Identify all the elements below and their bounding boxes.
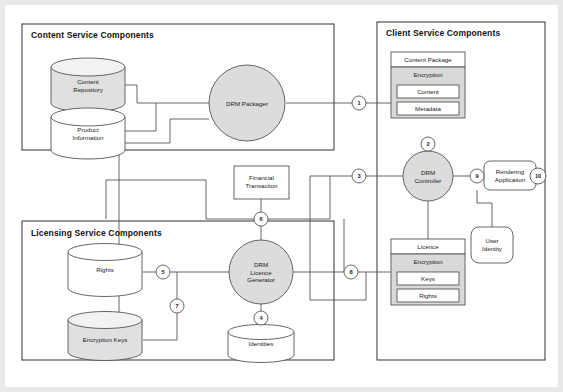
node-content-package-metadata — [397, 102, 459, 115]
connector-4-label: 4 — [254, 315, 268, 321]
node-licence — [391, 239, 465, 254]
line-rendering-to-user-identity — [477, 190, 492, 227]
panel-title-client-service: Client Service Components — [386, 28, 500, 38]
line-repository-to-packager — [125, 85, 209, 103]
node-drm-licence-generator — [229, 240, 293, 304]
drm-architecture-svg: .st { fill:none; stroke:#555; stroke-wid… — [0, 0, 563, 392]
node-content-package-group — [391, 52, 465, 118]
connector-10-label: 10 — [531, 173, 545, 179]
connector-6-label: 6 — [254, 216, 268, 222]
node-financial-transaction — [234, 166, 289, 199]
node-content-repository — [51, 58, 125, 112]
panel-title-content-service: Content Service Components — [31, 30, 154, 40]
node-licence-group — [391, 239, 465, 305]
node-content-package — [391, 52, 465, 67]
node-encryption-keys — [68, 312, 142, 361]
line-product-to-packager — [125, 103, 156, 131]
node-drm-packager — [209, 65, 285, 141]
line-encryption-keys-to-connector7 — [143, 313, 177, 340]
connector-5-label: 5 — [156, 269, 170, 275]
diagram-canvas: .st { fill:none; stroke:#555; stroke-wid… — [0, 0, 563, 392]
node-licence-keys — [397, 272, 459, 285]
connector-3-label: 3 — [352, 173, 366, 179]
line-bus-left — [106, 180, 330, 219]
node-rendering-application — [484, 161, 536, 190]
connector-2-label: 2 — [421, 141, 435, 147]
node-identities — [228, 325, 294, 363]
line-bus-vertical-left — [310, 176, 366, 300]
connector-1-label: 1 — [352, 100, 366, 106]
node-content-package-content — [397, 85, 459, 98]
connector-8-label: 8 — [344, 269, 358, 275]
connector-7-label: 7 — [170, 303, 184, 309]
node-product-information — [51, 108, 125, 159]
node-licence-rights — [397, 289, 459, 302]
node-user-identity — [471, 227, 513, 263]
panel-title-licensing-service: Licensing Service Components — [31, 228, 162, 238]
node-rights — [68, 244, 142, 297]
connector-9-label: 9 — [470, 173, 484, 179]
node-drm-controller — [403, 151, 453, 201]
